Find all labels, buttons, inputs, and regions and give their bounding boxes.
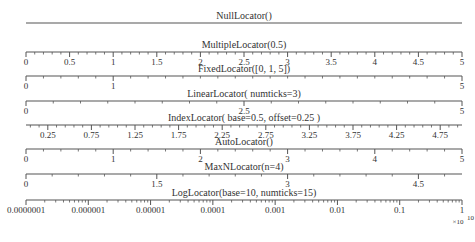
multiple-locator-tick-label: 4.5 xyxy=(413,57,425,67)
index-locator-tick-label: 0.25 xyxy=(40,130,56,140)
multiple-locator-tick-label: 4 xyxy=(373,57,378,67)
log-locator-tick-label: 0.001 xyxy=(265,205,285,215)
fixed-locator-tick-label: 1 xyxy=(111,81,116,91)
log-locator-title: LogLocator(base=10, numticks=15) xyxy=(172,187,317,199)
maxn-locator-tick-label: 1.5 xyxy=(151,179,163,189)
log-locator-tick-label: 0.0001 xyxy=(200,205,225,215)
log-locator-offset-exponent: 10 xyxy=(467,214,475,222)
auto-locator-tick-label: 5 xyxy=(460,154,465,164)
maxn-locator-tick-label: 4.5 xyxy=(413,179,425,189)
null-locator-title: NullLocator() xyxy=(216,10,272,22)
index-locator-title: IndexLocator( base=0.5, offset=0.25 ) xyxy=(168,112,320,124)
log-locator-tick-label: 0.000001 xyxy=(71,205,105,215)
maxn-locator-tick-label: 0 xyxy=(24,179,29,189)
index-locator-tick-label: 1.25 xyxy=(127,130,143,140)
locators-figure: NullLocator()MultipleLocator(0.5)00.511.… xyxy=(0,0,475,242)
linear-locator-tick-label: 0 xyxy=(24,106,29,116)
auto-locator-title: AutoLocator() xyxy=(215,136,273,148)
auto-locator-tick-label: 4 xyxy=(373,154,378,164)
auto-locator-tick-label: 3 xyxy=(285,154,290,164)
linear-locator-tick-label: 5 xyxy=(460,106,465,116)
log-locator-tick-label: 0.1 xyxy=(394,205,405,215)
log-locator-tick-label: 1 xyxy=(460,205,465,215)
index-locator-tick-label: 1.75 xyxy=(171,130,187,140)
fixed-locator-title: FixedLocator([0, 1, 5]) xyxy=(198,63,290,75)
linear-locator-title: LinearLocator( numticks=3) xyxy=(187,88,301,100)
multiple-locator-tick-label: 0.5 xyxy=(64,57,76,67)
auto-locator-tick-label: 0 xyxy=(24,154,29,164)
multiple-locator-tick-label: 0 xyxy=(24,57,29,67)
auto-locator-tick-label: 2 xyxy=(198,154,203,164)
auto-locator-tick-label: 1 xyxy=(111,154,116,164)
index-locator-tick-label: 3.75 xyxy=(345,130,361,140)
fixed-locator-tick-label: 5 xyxy=(460,81,465,91)
log-locator-offset-text: ×10 xyxy=(453,218,464,226)
index-locator-tick-label: 0.75 xyxy=(84,130,100,140)
index-locator-tick-label: 4.25 xyxy=(389,130,405,140)
log-locator-tick-label: 0.00001 xyxy=(136,205,165,215)
index-locator-tick-label: 4.75 xyxy=(432,130,448,140)
multiple-locator-tick-label: 3.5 xyxy=(326,57,338,67)
maxn-locator-title: MaxNLocator(n=4) xyxy=(205,161,284,173)
multiple-locator-title: MultipleLocator(0.5) xyxy=(202,39,287,51)
log-locator-tick-label: 0.01 xyxy=(330,205,346,215)
log-locator-tick-label: 0.0000001 xyxy=(7,205,45,215)
multiple-locator-tick-label: 1.5 xyxy=(151,57,163,67)
multiple-locator-tick-label: 1 xyxy=(111,57,116,67)
index-locator-tick-label: 3.25 xyxy=(302,130,318,140)
fixed-locator-tick-label: 0 xyxy=(24,81,29,91)
multiple-locator-tick-label: 5 xyxy=(460,57,465,67)
